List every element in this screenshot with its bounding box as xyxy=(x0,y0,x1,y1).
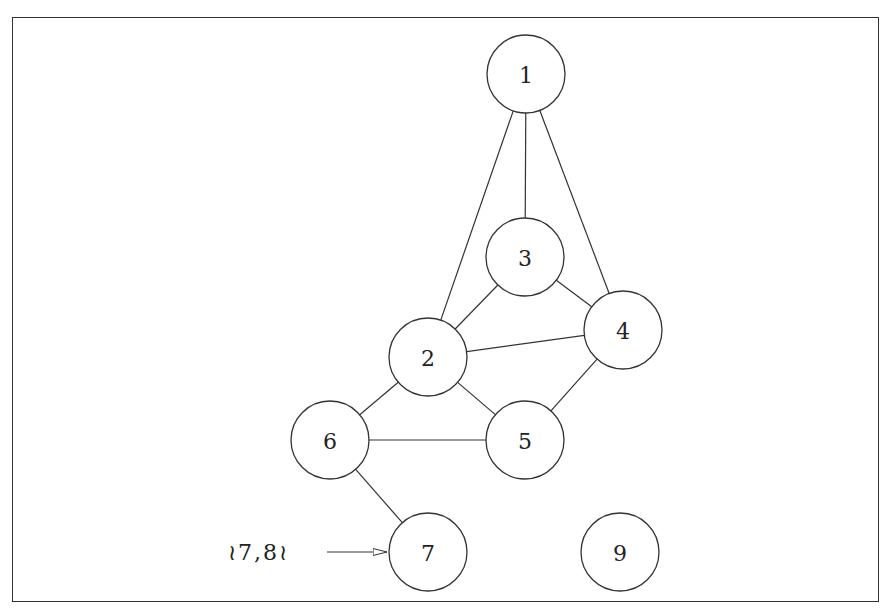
edge-4-5 xyxy=(551,359,597,411)
edge-6-7 xyxy=(356,469,403,522)
node-7: 7 xyxy=(389,513,467,591)
edge-2-6 xyxy=(360,382,398,415)
node-label: 3 xyxy=(518,246,532,271)
node-label: 7 xyxy=(421,541,435,566)
nodes-layer: 12345679 xyxy=(291,35,662,591)
edge-2-5 xyxy=(458,382,496,414)
edge-1-3 xyxy=(525,113,526,218)
graph-canvas: 12345679 ≀7,8≀ xyxy=(0,0,894,613)
edge-3-4 xyxy=(556,280,591,306)
node-2: 2 xyxy=(389,318,467,396)
node-label: 1 xyxy=(519,63,533,88)
component-annotation-label: ≀7,8≀ xyxy=(228,540,289,565)
node-label: 4 xyxy=(616,319,630,344)
node-3: 3 xyxy=(486,218,564,296)
node-9: 9 xyxy=(581,513,659,591)
node-1: 1 xyxy=(487,35,565,113)
edge-2-3 xyxy=(455,285,498,329)
edge-2-4 xyxy=(467,335,585,351)
annotation-layer: ≀7,8≀ xyxy=(228,540,387,565)
node-4: 4 xyxy=(584,291,662,369)
node-label: 5 xyxy=(518,429,532,454)
node-label: 6 xyxy=(323,429,337,454)
node-label: 2 xyxy=(421,346,435,371)
node-6: 6 xyxy=(291,401,369,479)
edges-layer xyxy=(356,110,609,522)
node-label: 9 xyxy=(613,541,627,566)
node-5: 5 xyxy=(486,401,564,479)
